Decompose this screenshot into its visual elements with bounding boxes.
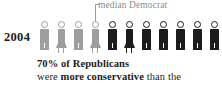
person-icon-9 bbox=[172, 21, 189, 56]
person-head-icon bbox=[143, 21, 150, 28]
person-leg-icon bbox=[131, 48, 132, 53]
person-foot-icon bbox=[193, 48, 202, 50]
person-leg-icon bbox=[92, 48, 93, 53]
person-foot-icon bbox=[159, 48, 168, 50]
person-head-icon bbox=[177, 21, 184, 28]
person-icon-4-median-democrat bbox=[87, 21, 104, 56]
person-leg-icon bbox=[126, 48, 127, 53]
person-head-icon bbox=[194, 21, 201, 28]
person-head-icon bbox=[41, 21, 48, 28]
infographic-panel: median Democrat 2004 bbox=[0, 0, 222, 91]
person-head-icon bbox=[75, 21, 82, 28]
person-leg-icon bbox=[97, 48, 98, 53]
person-icon-8 bbox=[155, 21, 172, 56]
caption-line-1: 70% of Republicans bbox=[37, 57, 222, 70]
caption-line-2: were more conservative than the bbox=[37, 70, 222, 83]
median-democrat-annotation: median Democrat bbox=[98, 0, 167, 11]
person-leg-icon bbox=[58, 48, 59, 53]
person-icon-1 bbox=[36, 21, 53, 56]
person-icon-7 bbox=[138, 21, 155, 56]
person-head-icon bbox=[92, 21, 99, 28]
person-leg-icon bbox=[63, 48, 64, 53]
person-head-icon bbox=[211, 21, 218, 28]
person-foot-icon bbox=[176, 48, 185, 50]
person-foot-icon bbox=[108, 48, 117, 50]
person-foot-icon bbox=[142, 48, 151, 50]
caption-line-2-emphasis: more conservative bbox=[61, 71, 144, 82]
year-label: 2004 bbox=[4, 30, 30, 45]
person-icon-11 bbox=[206, 21, 222, 56]
person-icon-5 bbox=[104, 21, 121, 56]
person-foot-icon bbox=[40, 48, 49, 50]
person-icon-2 bbox=[53, 21, 70, 56]
caption-line-2-pre: were bbox=[37, 71, 61, 82]
person-icon-10 bbox=[189, 21, 206, 56]
person-head-icon bbox=[160, 21, 167, 28]
caption-block: 70% of Republicans were more conservativ… bbox=[37, 57, 222, 83]
person-head-icon bbox=[126, 21, 133, 28]
pictogram-figure-row bbox=[36, 21, 222, 56]
person-foot-icon bbox=[74, 48, 83, 50]
person-icon-3 bbox=[70, 21, 87, 56]
person-icon-6 bbox=[121, 21, 138, 56]
caption-line-2-post: than the bbox=[144, 71, 181, 82]
person-head-icon bbox=[58, 21, 65, 28]
person-foot-icon bbox=[210, 48, 219, 50]
person-head-icon bbox=[109, 21, 116, 28]
